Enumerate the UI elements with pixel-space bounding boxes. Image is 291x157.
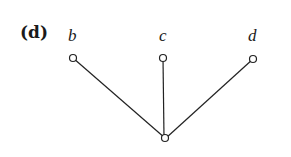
node-label-d: d [248,26,257,45]
edge-c-root [163,58,164,138]
edge-d-root [166,59,253,138]
node-d [250,56,257,63]
panel-label: (d) [20,22,48,42]
node-c [160,55,167,62]
tree-diagram: (d) b c d [0,0,291,157]
node-label-c: c [159,26,167,45]
node-b [70,55,77,62]
node-label-b: b [68,26,77,45]
node-root [162,135,169,142]
edge-b-root [73,58,165,138]
